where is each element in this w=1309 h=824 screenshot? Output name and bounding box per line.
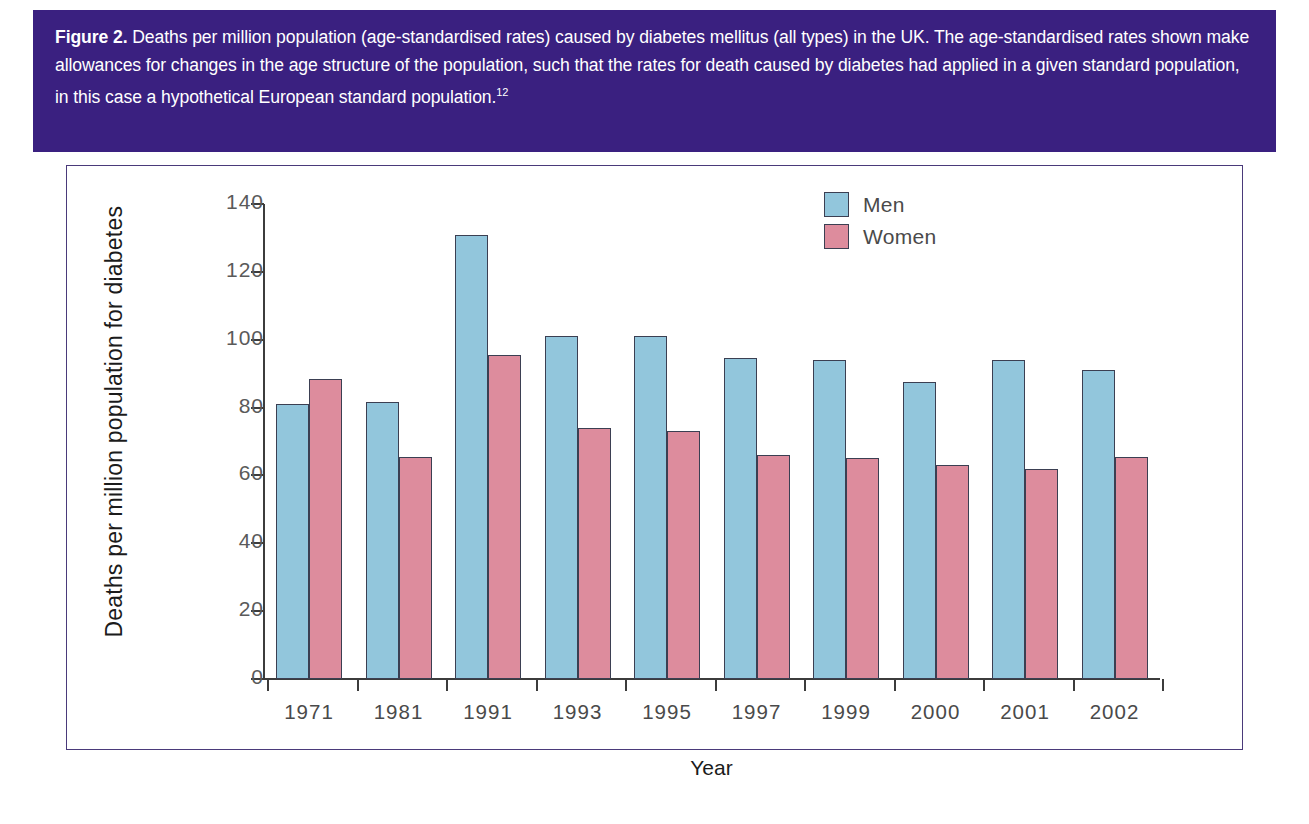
legend-label-women: Women — [863, 225, 936, 249]
x-tick-mark — [804, 679, 806, 691]
figure-caption-text: Figure 2. Deaths per million population … — [55, 24, 1254, 111]
legend-item-men: Men — [824, 192, 936, 217]
bar-men-1981 — [366, 402, 399, 679]
figure-caption-body: Deaths per million population (age-stand… — [55, 27, 1249, 107]
bar-women-1991 — [488, 355, 521, 679]
x-tick-label: 2002 — [1060, 700, 1170, 724]
bar-men-1993 — [545, 336, 578, 679]
y-tick-label: 20 — [204, 597, 264, 621]
bar-chart-plot: Deaths per million population for diabet… — [67, 166, 1244, 751]
legend-swatch-women-icon — [824, 224, 849, 249]
figure-container: Figure 2. Deaths per million population … — [33, 10, 1276, 750]
bar-women-2000 — [936, 465, 969, 679]
bar-men-2001 — [992, 360, 1025, 679]
x-tick-mark — [536, 679, 538, 691]
bar-women-2002 — [1115, 457, 1148, 679]
y-tick-label: 80 — [204, 394, 264, 418]
x-tick-mark — [357, 679, 359, 691]
y-axis-label: Deaths per million population for diabet… — [101, 208, 128, 638]
legend-label-men: Men — [863, 193, 905, 217]
x-axis-label: Year — [263, 756, 1160, 780]
bar-men-1997 — [724, 358, 757, 679]
bar-men-1999 — [813, 360, 846, 679]
x-tick-mark — [1073, 679, 1075, 691]
bar-men-1991 — [455, 235, 488, 679]
bar-women-1999 — [846, 458, 879, 679]
bar-women-1981 — [399, 457, 432, 679]
x-tick-mark — [267, 679, 269, 691]
bar-men-1971 — [276, 404, 309, 679]
chart-legend: Men Women — [824, 192, 936, 256]
x-tick-mark — [1162, 679, 1164, 691]
y-tick-label: 140 — [204, 190, 264, 214]
bar-women-2001 — [1025, 469, 1058, 679]
bar-women-1993 — [578, 428, 611, 679]
bar-men-1995 — [634, 336, 667, 679]
chart-panel: Deaths per million population for diabet… — [66, 165, 1243, 750]
y-tick-label: 0 — [204, 665, 264, 689]
x-tick-mark — [625, 679, 627, 691]
legend-item-women: Women — [824, 224, 936, 249]
figure-caption-band: Figure 2. Deaths per million population … — [33, 10, 1276, 152]
y-tick-label: 40 — [204, 529, 264, 553]
bar-men-2000 — [903, 382, 936, 679]
x-tick-mark — [983, 679, 985, 691]
y-tick-label: 100 — [204, 326, 264, 350]
bar-women-1971 — [309, 379, 342, 679]
legend-swatch-men-icon — [824, 192, 849, 217]
bar-men-2002 — [1082, 370, 1115, 679]
figure-reference-superscript: 12 — [496, 86, 508, 98]
y-tick-label: 120 — [204, 258, 264, 282]
bar-women-1995 — [667, 431, 700, 679]
x-tick-mark — [715, 679, 717, 691]
bar-women-1997 — [757, 455, 790, 679]
figure-label: Figure 2. — [55, 27, 127, 47]
x-tick-mark — [894, 679, 896, 691]
y-tick-label: 60 — [204, 461, 264, 485]
x-tick-mark — [446, 679, 448, 691]
